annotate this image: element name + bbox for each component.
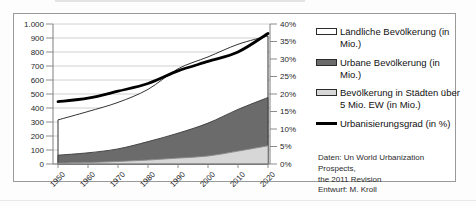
left-axis-tick-label: 200: [10, 132, 44, 141]
right-axis-tick-label: 40%: [280, 20, 310, 29]
legend-label: Ländliche Bevölkerung (in Mio.): [340, 26, 460, 49]
legend-area-swatch: [316, 89, 337, 96]
right-axis-tick-label: 10%: [280, 125, 310, 134]
left-axis-tick-label: 100: [10, 146, 44, 155]
legend-line-swatch: [316, 122, 337, 125]
legend-area-swatch: [316, 28, 337, 35]
source-line-3: Entwurf: M. Kroll: [318, 185, 454, 196]
source-line-2: the 2011 Revision: [318, 175, 454, 186]
left-axis-tick-label: 400: [10, 104, 44, 113]
left-axis-tick-label: 300: [10, 118, 44, 127]
legend-area-swatch: [316, 59, 337, 66]
left-axis-tick-label: 0: [10, 160, 44, 169]
right-axis-tick-label: 30%: [280, 55, 310, 64]
legend-label: Urbane Bevölkerung (in Mio.): [340, 57, 460, 80]
legend-item-urbanization-degree: Urbanisierungsgrad (in %): [316, 118, 450, 130]
right-axis-tick-label: 35%: [280, 37, 310, 46]
left-axis-tick-label: 600: [10, 76, 44, 85]
legend-item-rural: Ländliche Bevölkerung (in Mio.): [316, 26, 460, 49]
legend-item-megacities: Bevölkerung in Städten über 5 Mio. EW (i…: [316, 87, 460, 110]
left-axis-tick-label: 500: [10, 90, 44, 99]
right-axis-tick-label: 15%: [280, 107, 310, 116]
left-axis-tick-label: 1.000: [10, 20, 44, 29]
right-axis-tick-label: 0%: [280, 160, 310, 169]
source-note: Daten: Un World Urbanization Prospects, …: [318, 153, 454, 196]
right-axis-tick-label: 5%: [280, 142, 310, 151]
source-line-1: Daten: Un World Urbanization Prospects,: [318, 153, 454, 175]
left-axis-tick-label: 900: [10, 34, 44, 43]
legend-label: Urbanisierungsgrad (in %): [340, 118, 450, 130]
left-axis-tick-label: 800: [10, 48, 44, 57]
left-axis-tick-label: 700: [10, 62, 44, 71]
legend-item-urban: Urbane Bevölkerung (in Mio.): [316, 57, 460, 80]
urbanization-chart: 1.0009008007006005004003002001000 40%35%…: [0, 0, 476, 207]
right-axis-tick-label: 20%: [280, 90, 310, 99]
legend-label: Bevölkerung in Städten über 5 Mio. EW (i…: [340, 87, 460, 110]
right-axis-tick-label: 25%: [280, 72, 310, 81]
